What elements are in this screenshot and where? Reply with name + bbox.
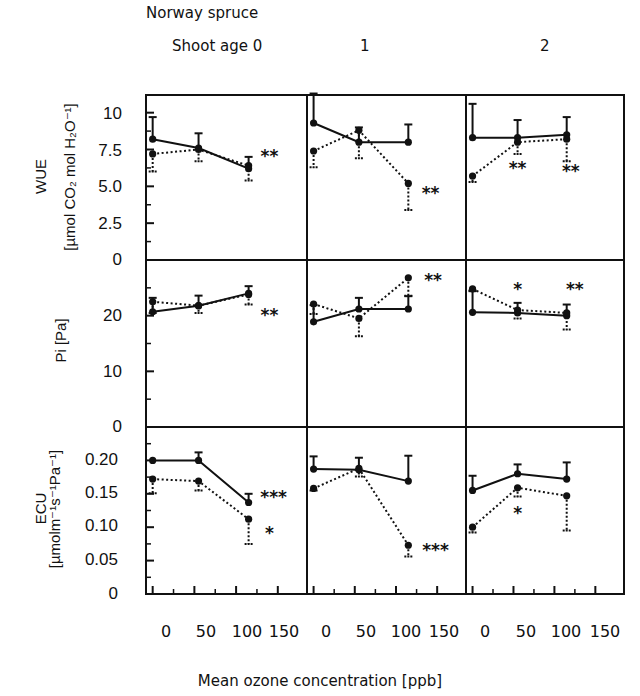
significance-marker: ** xyxy=(562,161,580,181)
data-point xyxy=(469,172,476,179)
significance-marker: ** xyxy=(509,158,527,178)
data-point xyxy=(195,457,202,464)
significance-marker: ** xyxy=(424,270,442,290)
data-point xyxy=(245,499,252,506)
data-point xyxy=(355,305,362,312)
ozone-series-line xyxy=(153,479,249,519)
data-point xyxy=(405,139,412,146)
data-point xyxy=(310,147,317,154)
data-point xyxy=(405,305,412,312)
data-point xyxy=(149,476,156,483)
significance-marker: ** xyxy=(422,183,440,203)
data-point xyxy=(355,127,362,134)
significance-marker: * xyxy=(265,523,274,543)
data-point xyxy=(563,476,570,483)
data-point xyxy=(195,146,202,153)
data-point xyxy=(405,180,412,187)
data-point xyxy=(469,134,476,141)
control-series-line xyxy=(153,139,249,168)
data-point xyxy=(514,484,521,491)
data-point xyxy=(405,542,412,549)
data-point xyxy=(245,162,252,169)
significance-marker: * xyxy=(513,279,522,299)
significance-marker: * xyxy=(513,503,522,523)
data-point xyxy=(405,274,412,281)
ozone-series-line xyxy=(314,130,409,183)
data-point xyxy=(310,119,317,126)
data-point xyxy=(245,291,252,298)
data-point xyxy=(469,524,476,531)
data-point xyxy=(563,136,570,143)
data-point xyxy=(195,302,202,309)
data-point xyxy=(149,308,156,315)
significance-marker: ** xyxy=(261,146,279,166)
data-point xyxy=(563,492,570,499)
data-point xyxy=(310,318,317,325)
significance-marker: *** xyxy=(260,487,287,507)
panel-grid-chart: *********************** xyxy=(0,0,640,696)
data-point xyxy=(514,470,521,477)
data-point xyxy=(149,457,156,464)
significance-marker: ** xyxy=(261,305,279,325)
data-point xyxy=(563,309,570,316)
data-point xyxy=(405,478,412,485)
data-point xyxy=(245,516,252,523)
data-point xyxy=(355,465,362,472)
data-point xyxy=(195,478,202,485)
data-point xyxy=(514,139,521,146)
data-point xyxy=(469,487,476,494)
data-point xyxy=(310,465,317,472)
data-point xyxy=(149,136,156,143)
data-point xyxy=(149,298,156,305)
panel-frame xyxy=(146,95,624,594)
ozone-series-line xyxy=(314,468,409,545)
significance-marker: *** xyxy=(422,540,449,560)
data-point xyxy=(514,307,521,314)
data-point xyxy=(149,150,156,157)
data-point xyxy=(469,309,476,316)
data-point xyxy=(355,315,362,322)
data-point xyxy=(469,285,476,292)
significance-marker: ** xyxy=(566,279,584,299)
data-point xyxy=(310,485,317,492)
data-point xyxy=(310,300,317,307)
